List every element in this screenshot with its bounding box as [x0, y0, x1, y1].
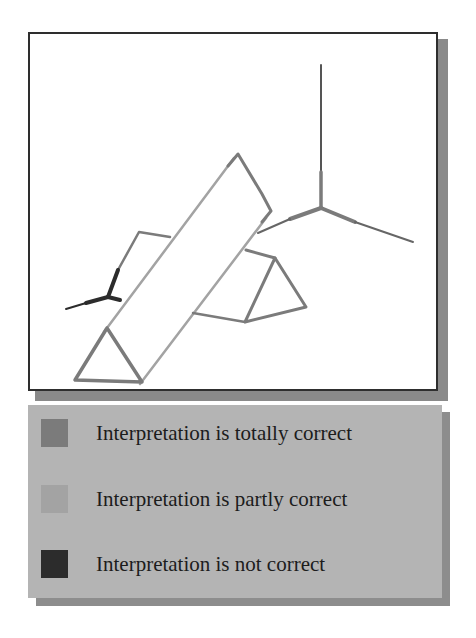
legend-label-totally-correct: Interpretation is totally correct: [96, 421, 352, 446]
legend-item-not-correct: Interpretation is not correct: [41, 550, 325, 578]
left-arm: [118, 232, 170, 270]
band-top-cap: [228, 154, 271, 222]
left-y-tail-thin: [66, 303, 86, 309]
legend-item-totally-correct: Interpretation is totally correct: [41, 419, 352, 447]
axis-left-branch: [290, 208, 321, 219]
legend: Interpretation is totally correct Interp…: [28, 405, 442, 598]
swatch-totally-correct: [41, 419, 68, 447]
axis-right-branch-thin: [355, 222, 413, 242]
triangle-right: [245, 258, 306, 322]
band-lower-edge: [140, 218, 266, 384]
diagram-frame: [28, 32, 438, 391]
triangle-right-bottom-link: [193, 313, 245, 322]
left-y-link: [108, 297, 120, 300]
axis-right-branch: [321, 208, 355, 222]
triangle-left: [75, 328, 142, 382]
left-y-stem: [108, 270, 118, 297]
swatch-not-correct: [41, 550, 68, 578]
interpretation-diagram: [28, 32, 438, 391]
band-upper-edge: [104, 158, 234, 332]
legend-label-partly-correct: Interpretation is partly correct: [96, 487, 347, 512]
legend-item-partly-correct: Interpretation is partly correct: [41, 485, 347, 513]
triangle-right-top-link: [246, 250, 275, 258]
legend-label-not-correct: Interpretation is not correct: [96, 552, 325, 577]
swatch-partly-correct: [41, 485, 68, 513]
left-y-tail: [86, 297, 108, 303]
